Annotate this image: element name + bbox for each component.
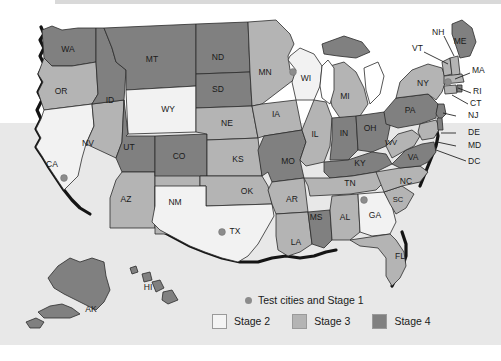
test-city-dot-tx: [219, 229, 226, 236]
state-label-MD: MD: [468, 140, 481, 150]
state-label-MO: MO: [281, 156, 295, 166]
state-label-MI: MI: [340, 91, 349, 101]
state-label-SD: SD: [212, 84, 224, 94]
state-CT[interactable]: [444, 85, 457, 94]
state-OK[interactable]: [200, 176, 272, 206]
state-DE[interactable]: [437, 118, 443, 130]
state-label-TX: TX: [230, 226, 241, 236]
state-AK[interactable]: [26, 258, 110, 328]
state-MN[interactable]: [248, 20, 296, 106]
leader-DC: [436, 150, 466, 161]
state-label-DE: DE: [468, 127, 480, 137]
state-label-SC: SC: [393, 195, 404, 204]
state-MI-upper[interactable]: [322, 36, 370, 58]
lake-huron-erie: [364, 62, 384, 104]
state-LA[interactable]: [276, 212, 312, 256]
state-label-NH: NH: [432, 27, 444, 37]
state-label-KY: KY: [354, 158, 366, 168]
state-label-MS: MS: [310, 212, 323, 222]
state-label-VT: VT: [412, 43, 423, 53]
state-label-NY: NY: [417, 78, 429, 88]
test-city-dot-wi: [290, 69, 297, 76]
state-SD[interactable]: [196, 72, 252, 108]
state-label-ND: ND: [212, 52, 224, 62]
state-label-NJ: NJ: [468, 110, 478, 120]
state-label-IA: IA: [272, 109, 280, 119]
state-label-IN: IN: [340, 128, 349, 138]
state-label-WI: WI: [301, 73, 311, 83]
state-ND[interactable]: [196, 22, 250, 74]
test-city-dot-ga: [361, 197, 368, 204]
state-label-WV: WV: [385, 138, 398, 147]
state-NH[interactable]: [450, 56, 460, 76]
state-label-MT: MT: [146, 54, 158, 64]
state-label-CA: CA: [46, 159, 58, 169]
state-label-NM: NM: [168, 197, 181, 207]
state-label-AZ: AZ: [121, 194, 132, 204]
state-label-ME: ME: [454, 36, 467, 46]
state-label-NC: NC: [400, 176, 412, 186]
state-OR[interactable]: [38, 58, 98, 110]
state-label-DC: DC: [468, 156, 480, 166]
state-label-OH: OH: [364, 123, 377, 133]
lake-michigan: [320, 60, 334, 104]
state-label-WA: WA: [61, 44, 75, 54]
state-label-NV: NV: [82, 138, 94, 148]
state-label-WY: WY: [161, 104, 175, 114]
state-label-UT: UT: [123, 142, 134, 152]
us-map: WA OR CA NV ID MT WY UT AZ NM CO ND SD N…: [0, 0, 501, 361]
figure-canvas: WA OR CA NV ID MT WY UT AZ NM CO ND SD N…: [0, 0, 501, 361]
state-AZ[interactable]: [110, 172, 155, 228]
state-label-VA: VA: [408, 152, 419, 162]
state-HI[interactable]: [130, 266, 178, 304]
state-label-AR: AR: [286, 194, 298, 204]
state-label-RI: RI: [473, 86, 482, 96]
state-label-CT: CT: [470, 98, 481, 108]
state-label-TN: TN: [344, 178, 355, 188]
state-label-OR: OR: [55, 86, 68, 96]
state-label-PA: PA: [405, 105, 416, 115]
state-label-HI: HI: [144, 282, 153, 292]
leader-CT: [452, 95, 468, 104]
state-shapes: [26, 20, 476, 328]
state-label-LA: LA: [291, 237, 302, 247]
state-label-MN: MN: [258, 67, 271, 77]
leader-VT: [424, 52, 448, 64]
state-label-CO: CO: [173, 151, 186, 161]
state-label-NE: NE: [221, 118, 233, 128]
state-label-AK: AK: [85, 304, 97, 314]
state-label-ID: ID: [106, 95, 115, 105]
state-label-MA: MA: [472, 65, 485, 75]
state-label-FL: FL: [395, 251, 405, 261]
leader-NH: [444, 36, 454, 56]
leader-MD: [437, 142, 456, 146]
state-label-AL: AL: [340, 212, 351, 222]
state-label-OK: OK: [241, 186, 254, 196]
state-label-GA: GA: [369, 210, 382, 220]
test-city-dot-ca: [61, 175, 68, 182]
state-label-IL: IL: [311, 129, 318, 139]
test-city-dot-ma: [445, 79, 452, 86]
state-label-KS: KS: [232, 154, 244, 164]
